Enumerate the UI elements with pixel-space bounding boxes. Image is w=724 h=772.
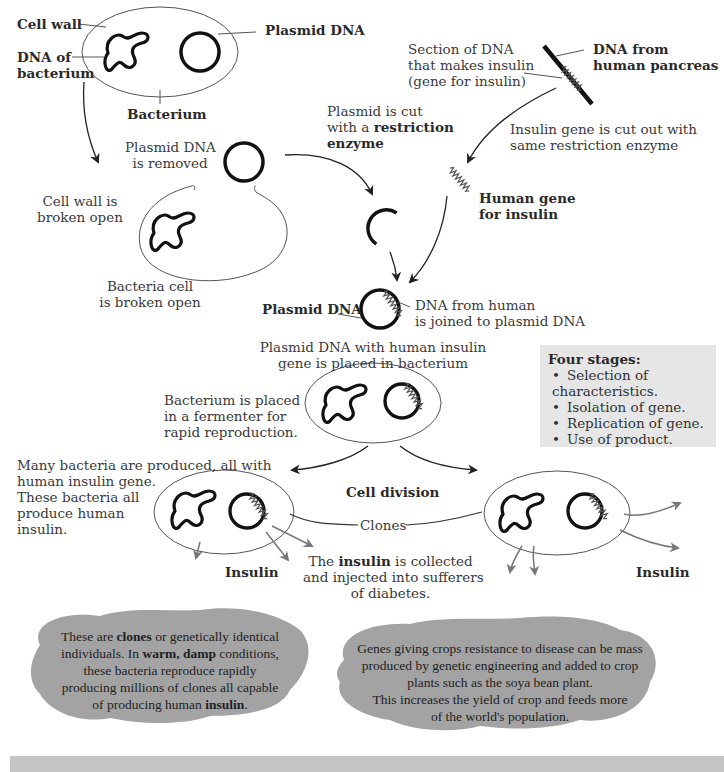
label-many-3: These bacteria all xyxy=(17,489,139,505)
bacterium-recombinant xyxy=(305,363,441,443)
label-many-4: produce human xyxy=(17,505,124,521)
label-placed-2: gene is placed in bacterium xyxy=(258,355,488,371)
label-section-dna-3: (gene for insulin) xyxy=(408,73,526,89)
text: or genetically identical xyxy=(152,629,279,644)
label-collected-1: The insulin is collected xyxy=(303,553,478,569)
label-plasmid-removed-2: is removed xyxy=(125,155,215,171)
label-dna-of-bacterium-1: DNA of xyxy=(17,49,71,65)
stages-list: Selection of characteristics. Isolation … xyxy=(548,367,708,447)
label-plasmid-removed-1: Plasmid DNA xyxy=(125,139,215,155)
label-insulin-right: Insulin xyxy=(636,564,690,580)
text-bold: warm, damp xyxy=(142,646,216,661)
blob-left-line: these bacteria reproduce rapidly xyxy=(40,662,300,679)
label-placed-1: Plasmid DNA with human insulin xyxy=(258,339,488,355)
text-bold: clones xyxy=(117,629,152,644)
label-collected-3: of diabetes. xyxy=(303,585,478,601)
text-bold: restriction xyxy=(374,119,454,135)
blob-right-text: Genes giving crops resistance to disease… xyxy=(345,640,655,725)
text: with a xyxy=(327,119,374,135)
stage-item: Selection of characteristics. xyxy=(552,367,708,399)
text-bold: insulin xyxy=(338,553,390,569)
blob-left-line: individuals. In warm, damp conditions, xyxy=(40,645,300,662)
label-many-1: Many bacteria are produced, all with xyxy=(17,457,271,473)
label-many-5: insulin. xyxy=(17,521,67,537)
label-dna-joined-2: is joined to plasmid DNA xyxy=(415,313,585,329)
label-dna-from-human-2: human pancreas xyxy=(593,57,718,73)
stage-item: Use of product. xyxy=(552,431,708,447)
blob-right-line: produced by genetic engineering and adde… xyxy=(345,657,655,674)
bacterium-clone-left xyxy=(154,470,312,560)
text: is collected xyxy=(391,553,473,569)
bacterium-clone-right xyxy=(484,471,680,574)
blob-right-line: plants such as the soya bean plant. xyxy=(345,674,655,691)
text: The xyxy=(308,553,338,569)
blob-right-line: of the world's population. xyxy=(345,708,655,725)
label-human-gene-1: Human gene xyxy=(479,190,576,206)
text: . xyxy=(244,697,247,712)
blob-left-line: These are clones or genetically identica… xyxy=(40,628,300,645)
label-fermenter-3: rapid reproduction. xyxy=(164,424,298,440)
label-clones: Clones xyxy=(360,517,406,533)
label-section-dna-2: that makes insulin xyxy=(408,57,534,73)
label-fermenter-1: Bacterium is placed xyxy=(164,392,300,408)
text: of producing human xyxy=(92,697,205,712)
blob-left-line: of producing human insulin. xyxy=(40,696,300,713)
label-bacteria-broken-2: is broken open xyxy=(95,294,205,310)
label-cell-wall-broken-1: Cell wall is xyxy=(30,193,130,209)
label-collected-2: and injected into sufferers xyxy=(303,569,478,585)
label-insulin-cut-1: Insulin gene is cut out with xyxy=(510,121,697,137)
label-dna-joined-1: DNA from human xyxy=(415,297,535,313)
text-bold: insulin xyxy=(205,697,244,712)
stages-title: Four stages: xyxy=(548,351,708,367)
blob-left-line: producing millions of clones all capable xyxy=(40,679,300,696)
label-insulin-left: Insulin xyxy=(225,564,279,580)
human-dna-strand xyxy=(524,46,592,104)
stage-item: Replication of gene. xyxy=(552,415,708,431)
text: These are xyxy=(61,629,116,644)
bacterium-top xyxy=(72,7,256,104)
bacterium-broken xyxy=(139,185,287,280)
blob-left-text: These are clones or genetically identica… xyxy=(40,628,300,713)
text: individuals. In xyxy=(61,646,142,661)
label-plasmid-cut-1: Plasmid is cut xyxy=(327,103,423,119)
bottom-bar xyxy=(10,756,724,772)
label-section-dna-1: Section of DNA xyxy=(408,41,513,57)
text: conditions, xyxy=(216,646,279,661)
blob-right-line: This increases the yield of crop and fee… xyxy=(345,691,655,708)
label-many-2: human insulin gene. xyxy=(17,473,156,489)
label-dna-from-human-1: DNA from xyxy=(593,41,668,57)
blob-right-line: Genes giving crops resistance to disease… xyxy=(345,640,655,657)
stage-item: Isolation of gene. xyxy=(552,399,708,415)
label-bacterium: Bacterium xyxy=(127,106,207,122)
label-bacteria-broken-1: Bacteria cell xyxy=(95,278,205,294)
label-human-gene-2: for insulin xyxy=(479,206,558,222)
label-cell-division: Cell division xyxy=(346,484,439,500)
label-plasmid-dna-joined: Plasmid DNA xyxy=(262,301,362,317)
label-cell-wall: Cell wall xyxy=(17,16,82,32)
label-dna-of-bacterium-2: bacterium xyxy=(17,65,95,81)
label-insulin-cut-2: same restriction enzyme xyxy=(510,137,678,153)
label-plasmid-cut-2: with a restriction xyxy=(327,119,454,135)
label-cell-wall-broken-2: broken open xyxy=(30,209,130,225)
four-stages-box: Four stages: Selection of characteristic… xyxy=(540,345,716,447)
label-plasmid-cut-3: enzyme xyxy=(327,135,384,151)
label-fermenter-2: in a fermenter for xyxy=(164,408,286,424)
label-plasmid-dna: Plasmid DNA xyxy=(265,22,365,38)
